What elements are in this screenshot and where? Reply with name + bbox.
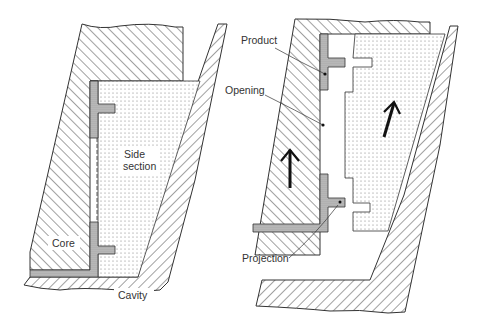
mold-diagram: Side section Core Cavity bbox=[0, 0, 480, 328]
label-projection: Projection bbox=[242, 252, 289, 264]
right-panel: Product Opening Projection bbox=[225, 19, 458, 313]
left-panel: Side section Core Cavity bbox=[24, 24, 227, 302]
label-product: Product bbox=[241, 34, 277, 46]
label-side: Side bbox=[124, 148, 145, 160]
label-section: section bbox=[123, 160, 156, 172]
label-core: Core bbox=[52, 237, 75, 249]
product-upper-right bbox=[320, 34, 345, 90]
label-opening: Opening bbox=[225, 84, 265, 96]
label-cavity: Cavity bbox=[118, 289, 148, 301]
